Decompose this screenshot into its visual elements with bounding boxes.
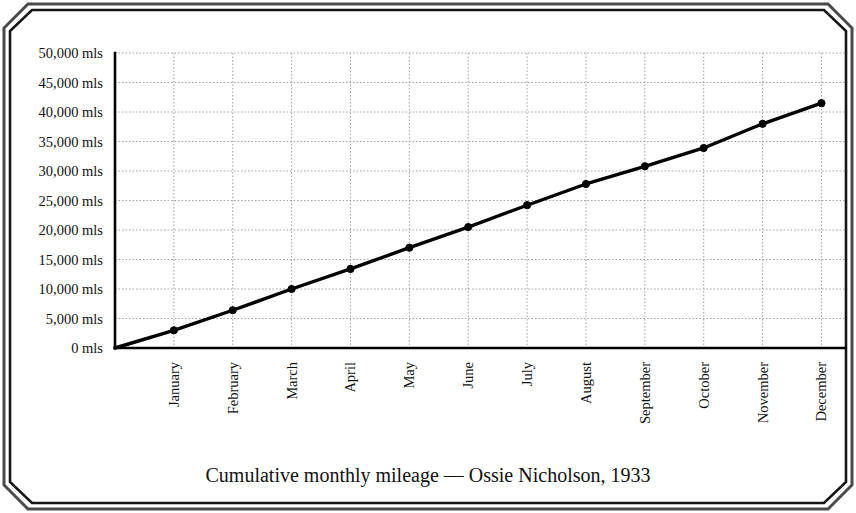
y-tick-label: 45,000 mls <box>39 75 104 91</box>
x-tick-label: March <box>284 361 300 400</box>
x-tick-label: January <box>166 361 182 407</box>
y-tick-label: 20,000 mls <box>39 222 104 238</box>
data-point-marker <box>759 120 766 127</box>
data-point-marker <box>523 202 530 209</box>
data-point-marker <box>170 327 177 334</box>
x-tick-label: April <box>342 362 358 393</box>
data-point-marker <box>229 307 236 314</box>
y-tick-labels: 0 mls5,000 mls10,000 mls15,000 mls20,000… <box>39 45 104 356</box>
x-tick-label: October <box>696 362 712 409</box>
y-tick-label: 40,000 mls <box>39 104 104 120</box>
x-tick-label: February <box>225 361 241 414</box>
y-tick-label: 10,000 mls <box>39 281 104 297</box>
data-point-marker <box>288 285 295 292</box>
data-point-marker <box>700 144 707 151</box>
x-tick-labels: JanuaryFebruaryMarchAprilMayJuneJulyAugu… <box>166 361 830 424</box>
y-tick-label: 5,000 mls <box>46 311 104 327</box>
chart-canvas: 0 mls5,000 mls10,000 mls15,000 mls20,000… <box>0 0 856 513</box>
data-point-marker <box>818 100 825 107</box>
x-tick-label: August <box>578 362 594 404</box>
data-point-marker <box>641 163 648 170</box>
data-point-marker <box>347 265 354 272</box>
x-tick-label: May <box>401 361 417 388</box>
x-tick-label: June <box>460 362 476 389</box>
line-chart: 0 mls5,000 mls10,000 mls15,000 mls20,000… <box>0 0 856 513</box>
y-tick-label: 0 mls <box>71 340 103 356</box>
x-tick-label: December <box>813 362 829 422</box>
y-tick-label: 15,000 mls <box>39 252 104 268</box>
data-point-marker <box>406 244 413 251</box>
grid-horizontal <box>115 53 845 319</box>
x-tick-label: July <box>519 361 535 386</box>
y-tick-label: 25,000 mls <box>39 193 104 209</box>
x-tick-label: November <box>755 362 771 423</box>
y-tick-label: 50,000 mls <box>39 45 104 61</box>
chart-title: Cumulative monthly mileage — Ossie Nicho… <box>206 464 651 487</box>
x-tick-label: September <box>637 362 653 424</box>
data-point-marker <box>582 180 589 187</box>
y-tick-label: 30,000 mls <box>39 163 104 179</box>
y-tick-label: 35,000 mls <box>39 134 104 150</box>
data-point-marker <box>465 223 472 230</box>
